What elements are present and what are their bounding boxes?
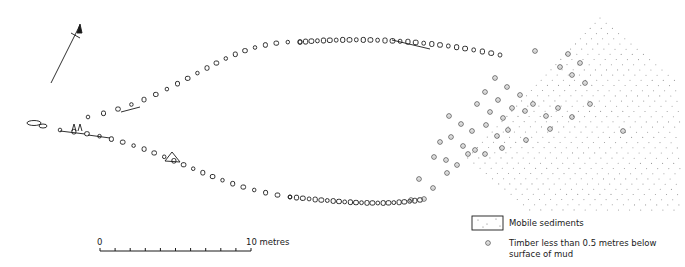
scale-start-label: 0 — [97, 237, 102, 247]
legend-timber-label-line2: surface of mud — [509, 249, 573, 259]
scale-end-label: 10 metres — [246, 237, 289, 247]
north-arrow-icon — [51, 24, 82, 83]
legend-mobile-sediments-icon — [472, 216, 503, 230]
legend-timber-label-line1: Timber less than 0.5 metres below — [509, 238, 656, 248]
timbers-below-mud — [409, 49, 626, 203]
timber-outline — [27, 37, 502, 205]
scale-bar — [100, 248, 251, 251]
legend-timber-circle-icon — [486, 241, 491, 246]
legend-mobile-sediments-label: Mobile sediments — [509, 218, 584, 228]
mobile-sediments-grid — [467, 17, 680, 210]
